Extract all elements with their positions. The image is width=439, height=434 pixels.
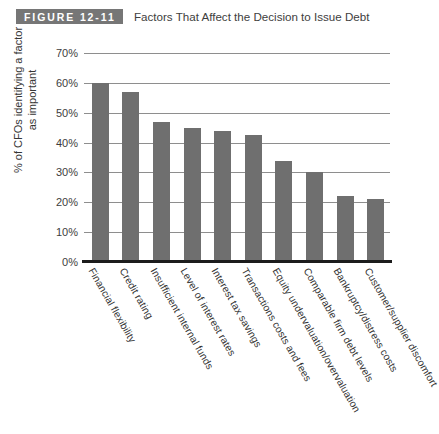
y-axis-tick-label: 50% — [38, 107, 78, 119]
bar — [122, 92, 139, 262]
bar — [367, 199, 384, 262]
bar — [214, 131, 231, 262]
figure-title: Factors That Affect the Decision to Issu… — [134, 9, 369, 24]
y-axis-tick-label: 70% — [38, 47, 78, 59]
y-axis-tick-labels: 70%60%50%40%30%20%10%0% — [34, 53, 78, 262]
y-axis-tick-label: 60% — [38, 77, 78, 89]
bar — [306, 172, 323, 262]
y-axis-title-line-1: % of CFOs identifying a factor — [11, 10, 25, 190]
gridline — [84, 83, 390, 84]
plot-area — [84, 53, 390, 262]
gridline — [84, 53, 390, 54]
y-axis-tick-label: 30% — [38, 166, 78, 178]
y-axis-tick-label: 10% — [38, 226, 78, 238]
bar — [153, 122, 170, 262]
bar — [337, 196, 354, 262]
x-axis-category-label: Level of interest rates — [179, 266, 238, 358]
bar — [92, 83, 109, 262]
bar — [275, 161, 292, 263]
x-axis-line — [82, 260, 392, 263]
bar — [184, 128, 201, 262]
bar-chart: % of CFOs identifying a factor as import… — [0, 34, 407, 434]
figure-header: FIGURE 12-11 Factors That Affect the Dec… — [0, 0, 407, 34]
bar — [245, 135, 262, 262]
x-axis-category-labels: Financial flexibilityCredit ratingInsuff… — [0, 266, 407, 434]
y-axis-tick-label: 40% — [38, 137, 78, 149]
y-axis-tick-label: 20% — [38, 196, 78, 208]
